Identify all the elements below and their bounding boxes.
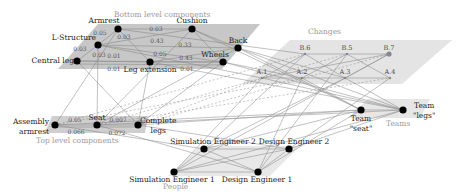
label-des-eng-2: Design Engineer 2 [259, 138, 330, 146]
node-team-legs [399, 106, 406, 113]
label-a3: A.3 [340, 69, 351, 76]
node-back [234, 44, 241, 51]
label-back: Back [229, 37, 248, 45]
label-a4: A.4 [385, 69, 396, 76]
label-team-seat: Team "seat" [350, 114, 373, 134]
label-sim-eng-1: Simulation Engineer 1 [129, 176, 214, 184]
layer-label-teams: Teams [386, 120, 410, 128]
label-a2: A.2 [297, 69, 308, 76]
node-wheels [219, 58, 226, 65]
node-cushion [188, 25, 195, 32]
edge-weight: 0.05 [68, 117, 81, 123]
node-seat [93, 121, 100, 128]
node-sim-eng-2 [200, 145, 207, 152]
label-sim-eng-2: Simulation Engineer 2 [170, 138, 255, 146]
edge-weight: 0.01 [107, 66, 120, 72]
edge-weight: 0.03 [92, 52, 105, 58]
layer-label-changes: Changes [308, 28, 341, 36]
edge-weight: 0.007 [109, 117, 126, 123]
node-l-structure [94, 41, 101, 48]
node-armrest [114, 25, 121, 32]
edge-weight: 0.01 [107, 53, 120, 59]
edge-weight: 0.43 [179, 55, 192, 61]
label-central-leg: Central leg [32, 57, 75, 65]
node-team-seat [357, 106, 364, 113]
label-b6: B.6 [300, 45, 311, 52]
node-a1 [261, 77, 263, 79]
node-b5 [346, 53, 348, 55]
label-complete-legs: Complete legs [140, 116, 176, 136]
edge-weight: 0.05 [93, 30, 106, 36]
label-leg-extension: Leg extension [123, 66, 176, 74]
node-a2 [301, 77, 303, 79]
label-armrest: Armrest [89, 17, 120, 25]
edge-weight: 0.33 [178, 42, 191, 48]
label-des-eng-1: Design Engineer 1 [222, 176, 293, 184]
node-a3 [344, 77, 346, 79]
layer-label-top: Top level components [36, 137, 119, 145]
layer-label-people: People [163, 183, 188, 191]
node-b7 [386, 51, 391, 56]
edge-weight: 0.03 [149, 26, 162, 32]
node-des-eng-2 [285, 145, 292, 152]
label-assembly-armrest: Assembly armrest [13, 117, 49, 137]
node-assembly-armrest [51, 121, 58, 128]
label-cushion: Cushion [177, 17, 208, 25]
label-a1: A.1 [257, 69, 268, 76]
edge-weight: 0.05 [153, 51, 166, 57]
edge-weight: 0.03 [117, 34, 130, 40]
diagram-graphics [0, 0, 470, 195]
edge-weight: 0.43 [150, 38, 163, 44]
label-team-legs: Team "legs" [413, 101, 435, 121]
node-b6 [304, 53, 306, 55]
network-diagram: Bottom level components Changes Top leve… [0, 0, 470, 195]
label-wheels: Wheels [201, 51, 229, 59]
label-seat: Seat [88, 114, 105, 122]
node-a4 [389, 77, 391, 79]
edge-weight: 0.072 [108, 130, 125, 136]
label-b7: B.7 [384, 45, 395, 52]
label-l-structure: L-Structure [52, 34, 96, 42]
edge-weight: 0.03 [73, 46, 86, 52]
edge-weight: 0.01 [180, 66, 193, 72]
label-b5: B.5 [342, 45, 353, 52]
edge-weight: 0.066 [67, 129, 84, 135]
